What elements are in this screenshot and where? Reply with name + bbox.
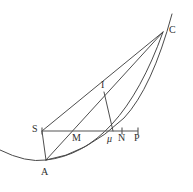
point-label-m: M bbox=[72, 133, 81, 143]
point-label-mu: μ bbox=[107, 134, 112, 144]
segment-s-a bbox=[42, 131, 46, 160]
curve-parabola bbox=[0, 14, 172, 161]
point-label-n: N bbox=[118, 133, 125, 143]
point-label-s: S bbox=[32, 124, 38, 134]
segment-i-mu bbox=[104, 92, 113, 131]
point-label-a: A bbox=[41, 167, 48, 177]
point-label-p: P bbox=[134, 133, 140, 143]
point-label-c: C bbox=[169, 25, 176, 35]
geometry-figure: C I S M μ N P A bbox=[0, 0, 193, 192]
point-label-i: I bbox=[101, 80, 105, 90]
figure-canvas bbox=[0, 0, 193, 192]
